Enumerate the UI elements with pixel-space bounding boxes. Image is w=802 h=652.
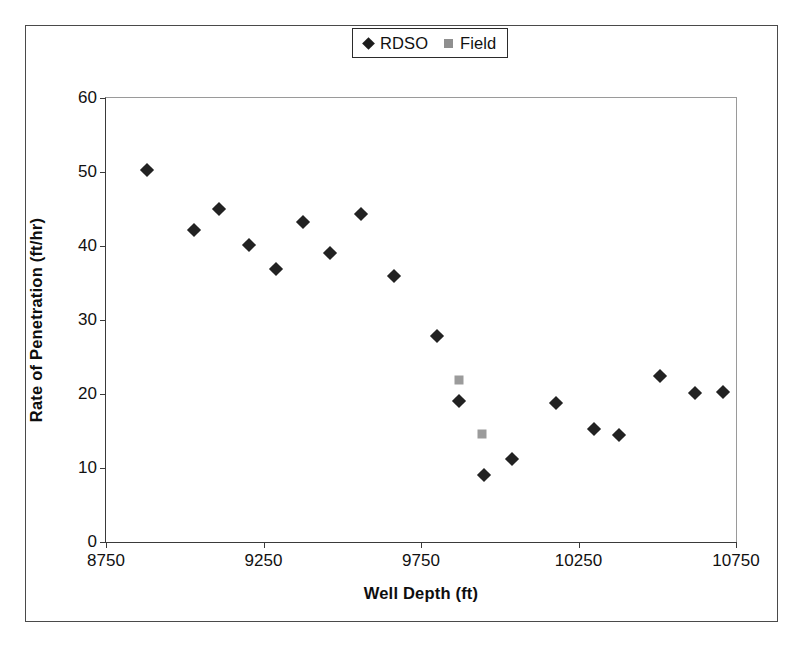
y-axis-tick: [100, 394, 106, 395]
data-point-rdso: [387, 269, 401, 283]
x-axis-tick-label: 9750: [402, 551, 440, 571]
data-point-rdso: [549, 396, 563, 410]
diamond-marker-icon: [362, 37, 375, 50]
data-point-rdso: [269, 262, 283, 276]
legend-entry-field: Field: [444, 34, 496, 53]
legend-entry-rdso: RDSO: [364, 34, 428, 53]
chart-figure: RDSO Field Rate of Penetration (ft/hr) W…: [0, 0, 802, 652]
y-axis-tick: [100, 98, 106, 99]
x-axis-tick-label: 10750: [712, 551, 759, 571]
y-axis-tick-label: 40: [78, 236, 97, 256]
x-axis-tick-label: 10250: [555, 551, 602, 571]
data-point-rdso: [688, 385, 702, 399]
data-point-rdso: [612, 428, 626, 442]
x-axis-tick-label: 8750: [87, 551, 125, 571]
y-axis-tick: [100, 320, 106, 321]
chart-legend: RDSO Field: [352, 28, 508, 58]
x-axis-tick: [736, 542, 737, 548]
y-axis-tick-label: 10: [78, 458, 97, 478]
data-point-rdso: [452, 394, 466, 408]
y-axis-tick: [100, 468, 106, 469]
y-axis-tick-label: 30: [78, 310, 97, 330]
data-point-rdso: [653, 369, 667, 383]
data-point-field: [478, 429, 487, 438]
data-point-rdso: [505, 452, 519, 466]
y-axis-tick-label: 0: [88, 532, 97, 552]
y-axis-tick-label: 60: [78, 88, 97, 108]
data-point-rdso: [187, 223, 201, 237]
x-axis-tick: [264, 542, 265, 548]
square-marker-icon: [444, 39, 453, 48]
data-point-rdso: [140, 163, 154, 177]
x-axis-title: Well Depth (ft): [364, 584, 479, 603]
x-axis-tick-label: 9250: [245, 551, 283, 571]
data-point-rdso: [323, 246, 337, 260]
data-point-rdso: [430, 329, 444, 343]
x-axis-tick: [579, 542, 580, 548]
data-point-field: [454, 375, 463, 384]
data-point-rdso: [212, 202, 226, 216]
x-axis-tick: [106, 542, 107, 548]
y-axis-tick-label: 50: [78, 162, 97, 182]
y-axis-title: Rate of Penetration (ft/hr): [27, 218, 46, 422]
data-point-rdso: [716, 385, 730, 399]
data-point-rdso: [242, 238, 256, 252]
data-point-rdso: [354, 207, 368, 221]
data-point-rdso: [587, 422, 601, 436]
data-point-rdso: [477, 468, 491, 482]
x-axis-tick: [421, 542, 422, 548]
y-axis-tick: [100, 246, 106, 247]
legend-label-field: Field: [460, 34, 496, 53]
y-axis-tick-label: 20: [78, 384, 97, 404]
data-point-rdso: [296, 215, 310, 229]
plot-area: 01020304050608750925097501025010750: [105, 97, 737, 543]
legend-label-rdso: RDSO: [380, 34, 428, 53]
y-axis-tick: [100, 172, 106, 173]
